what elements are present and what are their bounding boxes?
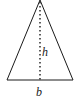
triangle-diagram: h b [0, 0, 81, 101]
base-label: b [36, 85, 42, 99]
height-label: h [42, 45, 48, 59]
triangle-outline [7, 0, 73, 80]
